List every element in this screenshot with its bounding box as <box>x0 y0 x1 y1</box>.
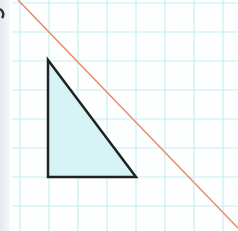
diagram-svg <box>0 0 238 231</box>
grid-paper <box>12 0 238 231</box>
diagram-canvas <box>0 0 238 231</box>
partial-mark <box>0 9 3 18</box>
